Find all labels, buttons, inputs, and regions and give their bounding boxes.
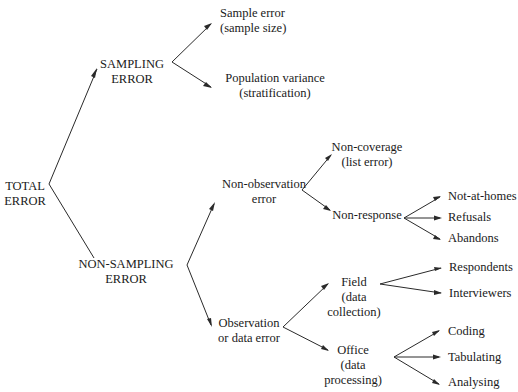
observation-connectors [283,283,329,351]
observation-bracket [283,284,328,350]
node-abandons-label: Abandons [448,231,499,246]
sampling-error-connectors [172,23,212,88]
node-non-coverage-line1: Non-coverage [332,140,403,155]
node-field-line3: collection) [327,305,380,320]
node-non-sampling-error-line2: ERROR [78,272,173,287]
node-refusals-label: Refusals [448,210,491,225]
node-non-observation-error-line2: error [222,192,306,207]
node-observation-error-line1: Observation [218,316,280,331]
field-bracket [380,268,441,293]
node-coding: Coding [448,324,485,339]
node-total-error-line2: ERROR [4,194,46,209]
non-response-connectors [404,196,442,240]
node-refusals: Refusals [448,210,491,225]
node-non-observation-error: Non-observation error [222,177,306,207]
node-not-at-homes-label: Not-at-homes [448,189,517,204]
node-sample-error-line1: Sample error [220,6,286,21]
node-coding-label: Coding [448,324,485,339]
node-non-coverage-line2: (list error) [332,155,403,170]
total-error-bracket [49,69,97,258]
node-tabulating-label: Tabulating [448,350,501,365]
arrowhead-icon [432,330,440,336]
node-tabulating: Tabulating [448,350,501,365]
node-office: Office (data processing) [324,343,382,388]
node-respondents-label: Respondents [449,260,513,275]
node-sampling-error-line2: ERROR [100,72,164,87]
node-abandons: Abandons [448,231,499,246]
non-sampling-error-connectors [187,202,215,327]
node-total-error-line1: TOTAL [4,179,46,194]
node-non-response: Non-response [332,208,401,223]
node-sampling-error: SAMPLING ERROR [100,57,164,87]
node-office-line3: processing) [324,373,382,388]
non-observation-bracket [302,155,331,210]
node-field-line2: (data [327,290,380,305]
node-interviewers-label: Interviewers [449,286,511,301]
node-non-sampling-error-line1: NON-SAMPLING [78,257,173,272]
node-population-variance-line2: (stratification) [225,86,325,101]
node-analysing: Analysing [448,375,499,390]
node-total-error: TOTAL ERROR [4,179,46,209]
node-analysing-label: Analysing [448,375,499,390]
node-sampling-error-line1: SAMPLING [100,57,164,72]
arrowhead-icon [433,355,441,360]
node-sample-error-line2: (sample size) [220,21,286,36]
node-non-coverage: Non-coverage (list error) [332,140,403,170]
non-observation-connectors [302,154,332,211]
node-observation-error-line2: or data error [218,331,280,346]
node-not-at-homes: Not-at-homes [448,189,517,204]
node-office-line1: Office [324,343,382,358]
arrowhead-icon [432,379,440,385]
node-sample-error: Sample error (sample size) [220,6,286,36]
arrowhead-icon [207,318,212,327]
field-connectors [380,267,442,295]
non-sampling-error-bracket [187,204,214,325]
node-respondents: Respondents [449,260,513,275]
node-field-line1: Field [327,275,380,290]
total-error-connectors [49,68,97,258]
arrowhead-icon [434,216,442,221]
node-population-variance: Population variance (stratification) [225,71,325,101]
office-connectors [394,330,441,385]
arrowhead-icon [204,23,212,30]
arrowhead-icon [209,202,215,211]
node-interviewers: Interviewers [449,286,511,301]
node-office-line2: (data [324,358,382,373]
sampling-error-bracket [172,24,211,87]
node-non-sampling-error: NON-SAMPLING ERROR [78,257,173,287]
total-error-tree-diagram: TOTAL ERROR SAMPLING ERROR Sample error … [0,0,518,392]
node-non-response-label: Non-response [332,208,401,223]
node-population-variance-line1: Population variance [225,71,325,86]
arrowhead-icon [91,68,97,78]
node-non-observation-error-line1: Non-observation [222,177,306,192]
node-field: Field (data collection) [327,275,380,320]
node-observation-error: Observation or data error [218,316,280,346]
